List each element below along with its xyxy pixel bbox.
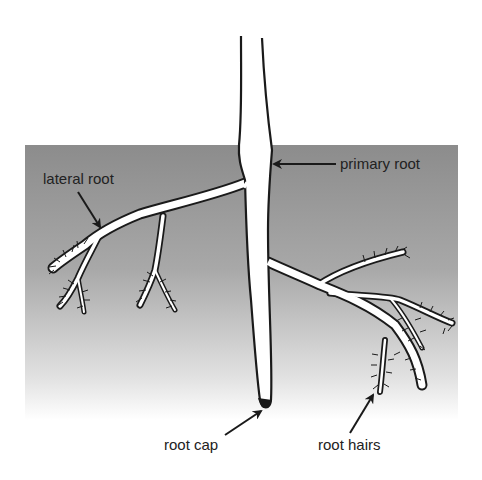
lateral-root-label: lateral root [43, 170, 115, 187]
primary-root-label: primary root [340, 155, 421, 172]
root-hairs-label: root hairs [318, 436, 381, 453]
root-system-diagram: primary root lateral root root cap root … [0, 0, 482, 480]
root-cap-label: root cap [164, 436, 218, 453]
